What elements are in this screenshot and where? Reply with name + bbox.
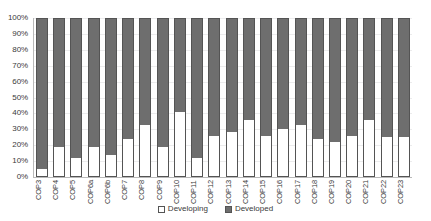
bar-stack: [36, 18, 48, 177]
bar-segment-developing: [105, 155, 117, 177]
bar-segment-developed: [295, 18, 307, 125]
legend-label: Developing: [168, 205, 208, 213]
bar-stack: [122, 18, 134, 177]
bar-stack: [243, 18, 255, 177]
bar-stack: [398, 18, 410, 177]
bar-segment-developing: [243, 120, 255, 177]
bar-stack: [88, 18, 100, 177]
bar-segment-developing: [53, 147, 65, 177]
bar-segment-developed: [105, 18, 117, 155]
bar-segment-developed: [329, 18, 341, 142]
bar-stack: [346, 18, 358, 177]
bar-segment-developing: [381, 137, 393, 177]
bar-stack: [226, 18, 238, 177]
filled-square-swatch: [225, 206, 232, 213]
bar-segment-developing: [363, 120, 375, 177]
y-tick-label: 20%: [12, 141, 28, 149]
bar-segment-developing: [191, 158, 203, 177]
bar-segment-developing: [157, 147, 169, 177]
bar-stack: [157, 18, 169, 177]
y-tick-label: 40%: [12, 109, 28, 117]
y-tick-label: 90%: [12, 30, 28, 38]
bar-segment-developed: [70, 18, 82, 158]
y-tick-label: 100%: [8, 14, 28, 22]
bar-stack: [174, 18, 186, 177]
bar-stack: [191, 18, 203, 177]
bar-stack: [329, 18, 341, 177]
bar-segment-developed: [157, 18, 169, 147]
bar-segment-developing: [208, 136, 220, 177]
y-tick-label: 80%: [12, 46, 28, 54]
bar-stack: [208, 18, 220, 177]
plot-area: [33, 18, 412, 178]
bar-stack: [312, 18, 324, 177]
legend-label: Developed: [235, 205, 273, 213]
bar-stack: [70, 18, 82, 177]
y-tick-label: 10%: [12, 157, 28, 165]
bar-segment-developing: [226, 132, 238, 177]
bar-stack: [139, 18, 151, 177]
bar-stack: [53, 18, 65, 177]
bar-stack: [105, 18, 117, 177]
bar-segment-developing: [346, 136, 358, 177]
bar-segment-developed: [312, 18, 324, 139]
open-square-swatch: [158, 206, 165, 213]
bar-segment-developed: [139, 18, 151, 125]
bar-segment-developed: [363, 18, 375, 120]
bar-segment-developed: [226, 18, 238, 132]
bar-segment-developed: [122, 18, 134, 139]
y-tick-label: 70%: [12, 62, 28, 70]
bar-segment-developing: [70, 158, 82, 177]
bar-segment-developing: [312, 139, 324, 177]
legend-entry[interactable]: Developed: [225, 205, 273, 213]
stacked-bar-chart: 100%90%80%70%60%50%40%30%20%10%0% COP3CO…: [0, 0, 431, 221]
bar-stack: [260, 18, 272, 177]
y-tick-label: 0%: [17, 173, 28, 181]
bar-segment-developed: [53, 18, 65, 147]
y-tick-label: 60%: [12, 78, 28, 86]
bar-stack: [363, 18, 375, 177]
bar-segment-developed: [208, 18, 220, 136]
bar-segment-developed: [243, 18, 255, 120]
bar-segment-developed: [277, 18, 289, 129]
bar-segment-developing: [174, 112, 186, 177]
bar-stack: [381, 18, 393, 177]
bar-segment-developed: [346, 18, 358, 136]
y-tick-label: 50%: [12, 94, 28, 102]
bar-segment-developing: [398, 137, 410, 177]
bar-segment-developing: [36, 169, 48, 177]
bar-stack: [277, 18, 289, 177]
chart-legend: DevelopingDeveloped: [0, 205, 431, 213]
bar-segment-developing: [122, 139, 134, 177]
bar-segment-developed: [191, 18, 203, 158]
y-axis: 100%90%80%70%60%50%40%30%20%10%0%: [0, 13, 30, 177]
bar-segment-developing: [277, 129, 289, 177]
bar-stack: [295, 18, 307, 177]
bar-segment-developing: [88, 147, 100, 177]
bar-segment-developing: [139, 125, 151, 177]
legend-entry[interactable]: Developing: [158, 205, 208, 213]
bar-segment-developing: [295, 125, 307, 177]
bar-segment-developed: [36, 18, 48, 169]
bars-layer: [34, 18, 412, 177]
y-tick-label: 30%: [12, 125, 28, 133]
bar-segment-developed: [88, 18, 100, 147]
bar-segment-developing: [260, 136, 272, 177]
bar-segment-developed: [398, 18, 410, 137]
bar-segment-developed: [381, 18, 393, 137]
bar-segment-developed: [174, 18, 186, 112]
bar-segment-developing: [329, 142, 341, 177]
bar-segment-developed: [260, 18, 272, 136]
